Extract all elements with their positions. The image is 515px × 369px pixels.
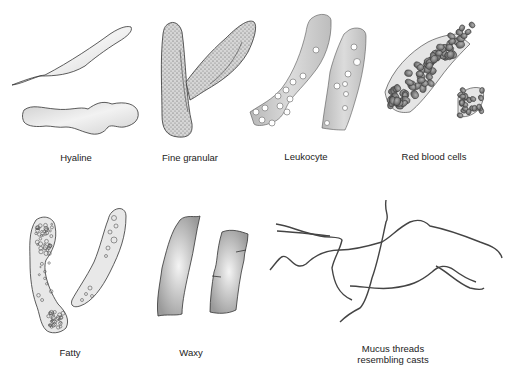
label-mucus-line-2: resembling casts <box>357 354 428 365</box>
red-blood-cell <box>445 44 453 52</box>
red-blood-cell <box>477 104 482 110</box>
red-blood-cell <box>472 105 477 111</box>
red-blood-cell <box>461 33 467 38</box>
fat-droplet <box>48 262 50 264</box>
fine-granular-cast-illustration <box>161 21 255 137</box>
red-blood-cell <box>459 100 464 106</box>
label-leukocyte: Leukocyte <box>284 151 327 162</box>
label-fine-granular: Fine granular <box>162 152 218 163</box>
red-blood-cell <box>479 87 484 93</box>
red-blood-cell <box>468 21 476 29</box>
label-waxy: Waxy <box>179 347 202 358</box>
label-mucus-line-1: Mucus threads <box>357 343 428 354</box>
label-mucus-threads: Mucus threads resembling casts <box>357 343 428 365</box>
waxy-cast-illustration <box>157 216 248 316</box>
red-blood-cell <box>416 71 424 77</box>
label-fatty: Fatty <box>59 347 80 358</box>
label-hyaline: Hyaline <box>60 152 92 163</box>
mucus-threads-illustration <box>270 200 502 322</box>
hyaline-cast-illustration <box>12 27 138 135</box>
red-blood-cell-cast-illustration <box>385 21 485 119</box>
fatty-cast-illustration <box>30 209 126 333</box>
red-blood-cell <box>459 94 465 99</box>
label-red-blood-cells: Red blood cells <box>402 151 467 162</box>
urinary-casts-figure <box>0 0 515 369</box>
leukocyte-cast-illustration <box>250 14 366 130</box>
